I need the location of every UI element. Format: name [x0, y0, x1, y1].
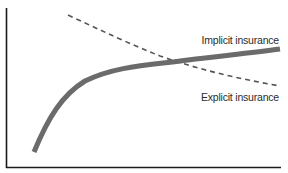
- chart-canvas: [0, 0, 288, 173]
- implicit-insurance-label: Implicit insurance: [201, 34, 279, 46]
- explicit-insurance-label: Explicit insurance: [201, 91, 279, 103]
